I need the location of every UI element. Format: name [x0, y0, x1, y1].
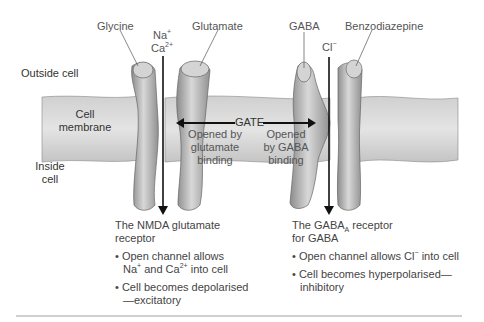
gabaa-title-line1: The GABAA receptor	[292, 219, 472, 232]
nmda-bullet-1-line2: Na+ and Ca2+ into cell	[123, 263, 255, 276]
opened-glutamate-line1: Opened by	[185, 128, 245, 141]
gabaa-bullet-2: • Cell becomes hyperpolarised— inhibitor…	[292, 268, 472, 294]
gabaa-into-cell: into cell	[419, 250, 459, 262]
opened-gaba-line3: binding	[258, 154, 314, 167]
outside-cell-label: Outside cell	[21, 67, 78, 80]
benzodiazepine-leader	[356, 30, 372, 66]
gabaa-bullet-2-line2: inhibitory	[300, 281, 472, 294]
gabaa-title-line2: for GABA	[292, 232, 472, 245]
glutamate-label: Glutamate	[192, 20, 243, 33]
gabaa-bullet-1-text: • Open channel allows Cl	[292, 250, 414, 262]
glycine-label: Glycine	[97, 20, 134, 33]
inside-cell-label-line2: cell	[30, 173, 70, 186]
nmda-into-cell: into cell	[188, 263, 228, 275]
gabaa-bullet-1: • Open channel allows Cl− into cell	[292, 250, 472, 263]
glycine-binding-site	[133, 62, 153, 78]
nmda-bullet-2-line1: • Cell becomes depolarised	[123, 281, 255, 294]
benzodiazepine-label: Benzodiazepine	[345, 20, 423, 33]
gaba-label: GABA	[289, 20, 320, 33]
gabaa-caption: The GABAA receptor for GABA • Open chann…	[292, 219, 472, 294]
chloride-symbol: Cl	[322, 41, 332, 53]
sodium-ion-label: Na+	[153, 29, 171, 42]
nmda-title-line1: The NMDA glutamate	[115, 219, 255, 232]
nmda-bullet-2-line2: —excitatory	[123, 294, 255, 307]
glycine-leader	[120, 30, 138, 66]
gabaa-bullet-2-line1: • Cell becomes hyperpolarised—	[300, 268, 472, 281]
nmda-bullet-1-line1: • Open channel allows	[123, 250, 255, 263]
chloride-ion-label: Cl−	[322, 41, 336, 54]
benzodiazepine-binding-site	[346, 60, 362, 78]
glutamate-binding-site	[181, 61, 209, 77]
opened-glutamate-line3: binding	[185, 154, 245, 167]
opened-gaba-line1: Opened	[258, 128, 314, 141]
nmda-caption: The NMDA glutamate receptor • Open chann…	[115, 219, 255, 307]
benzodiazepine-subunit	[337, 63, 362, 210]
nmda-ca-charge: 2+	[180, 262, 188, 269]
gabaa-title-b: receptor	[349, 219, 392, 231]
sodium-charge: +	[167, 28, 171, 35]
opened-glutamate-line2: glutamate	[185, 141, 245, 154]
cell-membrane-label: Cell membrane	[55, 108, 115, 134]
opened-gaba-line2: by GABA	[258, 141, 314, 154]
opened-by-gaba-label: Opened by GABA binding	[258, 128, 314, 167]
cell-membrane-right	[355, 96, 458, 162]
calcium-symbol: Ca	[151, 42, 165, 54]
sodium-symbol: Na	[153, 29, 167, 41]
inside-cell-label-line1: Inside	[30, 160, 70, 173]
cell-membrane-label-line2: membrane	[55, 121, 115, 134]
chloride-charge: −	[332, 40, 336, 47]
nmda-title-line2: receptor	[115, 232, 255, 245]
cell-membrane-label-line1: Cell	[55, 108, 115, 121]
nmda-ca: and Ca	[141, 263, 180, 275]
nmda-bullet-1: • Open channel allows Na+ and Ca2+ into …	[115, 250, 255, 276]
gaba-ion-flow-arrowhead	[324, 206, 334, 215]
nmda-ion-flow-arrowhead	[158, 206, 168, 215]
gabaa-title-a: The GABA	[292, 219, 345, 231]
opened-by-glutamate-label: Opened by glutamate binding	[185, 128, 245, 167]
glutamate-leader	[200, 30, 218, 66]
calcium-ion-label: Ca2+	[151, 42, 173, 55]
calcium-charge: 2+	[165, 41, 173, 48]
nmda-na: Na	[123, 263, 137, 275]
inside-cell-label: Inside cell	[30, 160, 70, 186]
nmda-bullet-2: • Cell becomes depolarised —excitatory	[115, 281, 255, 307]
